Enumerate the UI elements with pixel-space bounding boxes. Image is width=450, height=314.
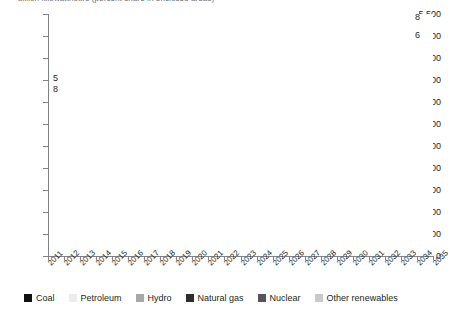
legend-item-coal[interactable]: Coal	[24, 293, 55, 303]
percent-label-right-nuclear: 17	[415, 57, 425, 67]
legend-label: Natural gas	[198, 293, 244, 303]
legend-swatch-icon	[24, 294, 32, 302]
legend-swatch-icon	[258, 294, 266, 302]
percent-label-right-other-renewables: 8	[415, 12, 420, 22]
legend-item-other-renewables[interactable]: Other renewables	[315, 293, 398, 303]
legend-label: Nuclear	[270, 293, 301, 303]
chart-legend: CoalPetroleumHydroNatural gasNuclearOthe…	[24, 293, 412, 303]
chart-title: billion kilowatthours (percent share in …	[18, 0, 214, 3]
legend-label: Coal	[36, 293, 55, 303]
legend-swatch-icon	[186, 294, 194, 302]
percent-label-left-coal: 42	[53, 212, 63, 222]
legend-swatch-icon	[136, 294, 144, 302]
legend-label: Petroleum	[81, 293, 122, 303]
percent-label-right-natural-gas: 40	[415, 127, 425, 137]
legend-item-hydro[interactable]: Hydro	[136, 293, 172, 303]
legend-item-natural-gas[interactable]: Natural gas	[186, 293, 244, 303]
percent-label-right-coal: 28	[415, 212, 425, 222]
legend-item-petroleum[interactable]: Petroleum	[69, 293, 122, 303]
legend-label: Hydro	[148, 293, 172, 303]
plot-area	[48, 14, 433, 256]
percent-label-left-natural-gas: 25	[53, 151, 63, 161]
percent-label-left-other-renewables: 5	[53, 73, 58, 83]
legend-label: Other renewables	[327, 293, 398, 303]
percent-label-left-hydro: 8	[53, 84, 58, 94]
percent-label-left-nuclear: 19	[53, 109, 63, 119]
percent-label-right-hydro: 6	[415, 30, 420, 40]
legend-swatch-icon	[69, 294, 77, 302]
legend-item-nuclear[interactable]: Nuclear	[258, 293, 301, 303]
legend-swatch-icon	[315, 294, 323, 302]
